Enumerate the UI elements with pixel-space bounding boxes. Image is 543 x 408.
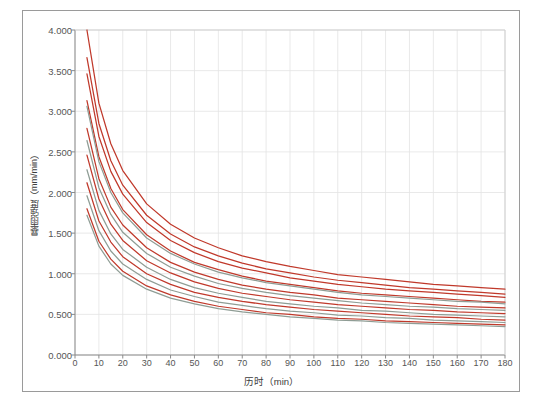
y-tick-label: 3.000	[30, 106, 72, 117]
y-tick-label: 0.500	[30, 309, 72, 320]
x-axis-title: 历时（min）	[0, 374, 543, 388]
y-axis-title-text: 暴雨强度（mm/min）	[26, 150, 42, 236]
rainfall-idf-chart: 0.0000.5001.0001.5002.0002.5003.0003.500…	[0, 0, 543, 408]
y-tick-label: 3.500	[30, 65, 72, 76]
x-tick-label: 180	[490, 358, 520, 368]
y-tick-label: 4.000	[30, 25, 72, 36]
y-axis-title: 暴雨强度（mm/min）	[26, 150, 42, 270]
plot-svg	[0, 0, 543, 408]
